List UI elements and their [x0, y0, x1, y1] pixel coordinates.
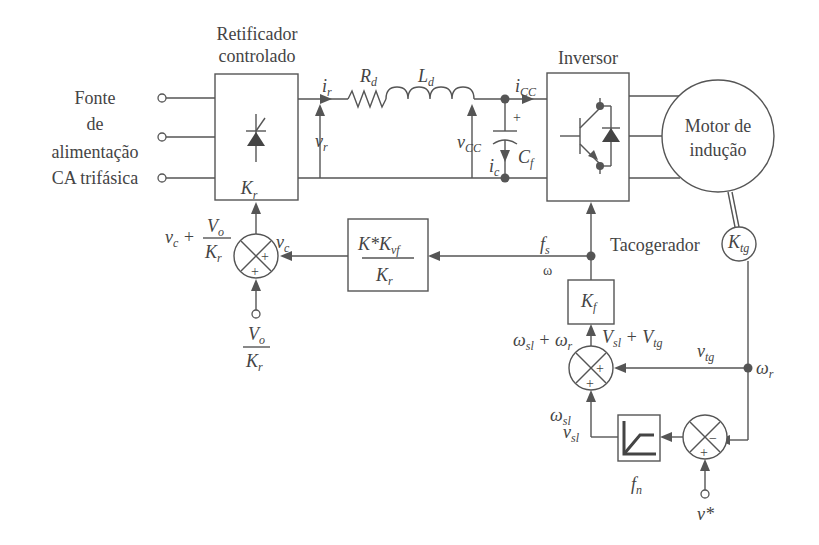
cf-label: Cf — [518, 147, 535, 170]
motor-label: indução — [690, 140, 747, 160]
tachogenerator-label: Tacogerador — [610, 235, 700, 255]
capacitor-plus: + — [513, 110, 521, 125]
vc-plus-vo-over-kr-label: vc + Vo Kr — [165, 216, 231, 265]
speed-error-summer: − + — [683, 415, 727, 460]
motor-shaft — [728, 192, 735, 227]
svg-text:+: + — [251, 264, 259, 279]
svg-text:alimentação: alimentação — [52, 142, 139, 162]
svg-text:Fonte: Fonte — [74, 88, 115, 108]
fs-label: fs — [540, 234, 550, 257]
slip-speed-summer: + + — [569, 346, 613, 391]
svg-text:de: de — [87, 114, 104, 134]
vsl-label: vsl — [563, 422, 580, 445]
vo-over-kr-input-label: Vo Kr — [243, 324, 270, 374]
rd-label: Rd — [359, 66, 378, 89]
vstar-input-terminal — [701, 490, 709, 498]
wr-label: ωr — [756, 358, 774, 381]
ac-source-label: Fonte de alimentação CA trifásica — [52, 88, 139, 188]
vr-label: vr — [315, 131, 328, 154]
vo-input-terminal — [252, 310, 260, 318]
svg-text:+: + — [261, 249, 269, 264]
svg-text:Vo: Vo — [207, 216, 224, 239]
ld-label: Ld — [417, 66, 435, 89]
fn-label: fn — [631, 474, 642, 497]
svg-text:−: − — [709, 431, 717, 446]
vsl-plus-vtg-label: Vsl + Vtg — [602, 327, 663, 350]
motor-label: Motor de — [685, 116, 752, 136]
svg-text:CA trifásica: CA trifásica — [52, 168, 138, 188]
svg-text:Kr: Kr — [245, 351, 263, 374]
ir-label: ir — [322, 76, 332, 99]
resistor-rd-icon — [348, 91, 386, 107]
ic-label: ic — [489, 156, 500, 179]
icc-label: iCC — [515, 76, 537, 99]
inverter-title: Inversor — [558, 48, 618, 68]
vcc-label: vCC — [457, 132, 482, 155]
vstar-label: v* — [697, 504, 714, 524]
induction-motor — [662, 80, 774, 192]
rectifier-control-summer: + + — [234, 234, 278, 279]
svg-text:controlado: controlado — [219, 46, 296, 66]
svg-text:Kr: Kr — [204, 242, 222, 265]
wsl-plus-wr-label: ωsl + ωr — [513, 330, 573, 353]
svg-text:vc +: vc + — [165, 227, 195, 250]
rectifier-title: Retificador controlado — [217, 24, 298, 66]
svg-text:+: + — [586, 376, 594, 391]
svg-text:Retificador: Retificador — [217, 24, 298, 44]
svg-text:+: + — [596, 361, 604, 376]
svg-text:Vo: Vo — [248, 324, 265, 347]
svg-text:+: + — [700, 445, 708, 460]
vf-drive-block-diagram: Fonte de alimentação CA trifásica Retifi… — [0, 0, 819, 545]
omega-label: ω — [543, 263, 552, 278]
vtg-label: vtg — [697, 341, 714, 364]
ac-terminals — [158, 94, 215, 182]
